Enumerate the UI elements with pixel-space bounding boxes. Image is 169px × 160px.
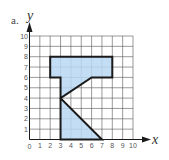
y-tick-label: 3 bbox=[24, 105, 28, 112]
y-tick-label: 8 bbox=[24, 53, 28, 60]
y-tick-label: 1 bbox=[24, 126, 28, 133]
x-axis-label: x bbox=[151, 132, 159, 147]
x-tick-label: 3 bbox=[59, 142, 63, 149]
y-tick-label: 2 bbox=[24, 115, 28, 122]
x-tick-label: 0 bbox=[28, 143, 32, 150]
x-tick-label: 6 bbox=[90, 142, 94, 149]
x-tick-label: 7 bbox=[100, 142, 104, 149]
x-tick-label: 4 bbox=[69, 142, 73, 149]
y-axis-label: y bbox=[25, 8, 34, 23]
y-tick-label: 9 bbox=[24, 43, 28, 50]
y-axis-arrow-icon bbox=[27, 22, 33, 32]
x-tick-label: 1 bbox=[38, 142, 42, 149]
y-tick-label: 7 bbox=[24, 64, 28, 71]
x-tick-label: 9 bbox=[121, 142, 125, 149]
y-tick-label: 5 bbox=[24, 84, 28, 91]
x-tick-label: 2 bbox=[48, 142, 52, 149]
part-label: a. bbox=[11, 14, 19, 26]
y-tick-label: 4 bbox=[24, 95, 28, 102]
x-tick-label: 10 bbox=[129, 142, 137, 149]
x-axis-arrow-icon bbox=[142, 137, 151, 143]
coordinate-grid-figure: 01234567891012345678910 a. y x bbox=[0, 0, 169, 160]
y-tick-label: 10 bbox=[20, 33, 28, 40]
x-tick-label: 5 bbox=[79, 142, 83, 149]
x-tick-label: 8 bbox=[110, 142, 114, 149]
y-tick-label: 6 bbox=[24, 74, 28, 81]
